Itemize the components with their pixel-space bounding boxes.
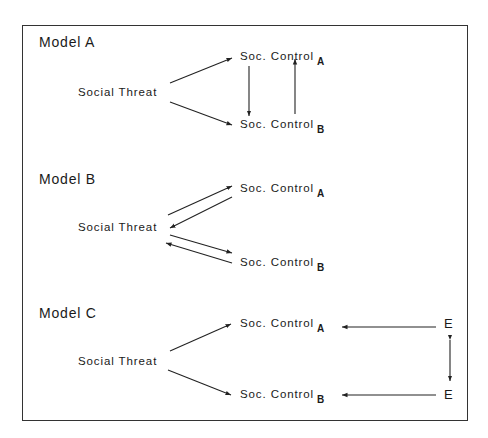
arrow-threat-to-control-b xyxy=(170,235,232,253)
line-threat-control-b xyxy=(168,370,231,395)
arrow-threat-to-control-a xyxy=(168,186,232,215)
arrow-threat-to-control-b xyxy=(170,102,232,125)
line-threat-control-a xyxy=(170,324,231,351)
arrow-control-a-to-threat xyxy=(170,197,232,228)
arrow-control-b-to-threat xyxy=(166,243,232,263)
arrows-layer xyxy=(0,0,488,438)
arrow-threat-to-control-a xyxy=(170,58,232,83)
